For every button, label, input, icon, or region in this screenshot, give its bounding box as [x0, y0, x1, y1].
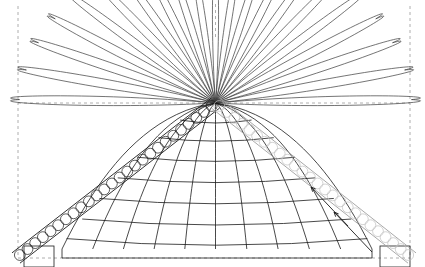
- figure-canvas: Parabolic dome diagram with radial petal…: [0, 0, 425, 267]
- diagram-svg: Parabolic dome diagram with radial petal…: [0, 0, 425, 267]
